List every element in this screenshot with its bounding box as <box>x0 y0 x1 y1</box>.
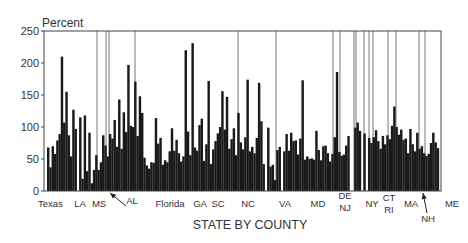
bar <box>244 137 246 191</box>
bar <box>283 151 285 191</box>
bar <box>292 141 294 191</box>
bar <box>233 128 235 191</box>
bar <box>272 165 274 191</box>
bar <box>251 147 253 191</box>
bar <box>260 121 262 191</box>
bar <box>221 91 223 191</box>
bar <box>75 129 77 191</box>
bar <box>123 112 125 191</box>
bar <box>164 160 166 191</box>
bar <box>384 144 386 191</box>
bar <box>400 130 402 191</box>
bar <box>304 160 306 191</box>
bar <box>52 146 54 191</box>
bar <box>120 149 122 191</box>
bar <box>334 137 336 191</box>
bar <box>382 136 384 191</box>
bar <box>148 169 150 191</box>
bar <box>285 134 287 191</box>
bar <box>395 127 397 191</box>
bar <box>100 162 102 191</box>
bar <box>219 127 221 191</box>
state-label-de: DE <box>338 190 351 201</box>
state-label-nj: NJ <box>339 202 351 213</box>
bar <box>47 147 49 191</box>
y-tick-label: 150 <box>21 89 39 101</box>
state-label-md: MD <box>311 198 326 209</box>
bar <box>269 167 271 191</box>
al-arrow-icon <box>110 193 126 206</box>
bar <box>379 149 381 191</box>
state-label-sc: SC <box>211 198 224 209</box>
bar <box>157 144 159 191</box>
bar <box>185 50 187 191</box>
bar <box>391 126 393 191</box>
bar <box>407 153 409 191</box>
bar <box>386 135 388 191</box>
bar <box>65 92 67 191</box>
bar <box>150 162 152 191</box>
bar <box>146 165 148 191</box>
bar <box>423 153 425 191</box>
state-label-al: AL <box>126 195 138 206</box>
state-label-ga: GA <box>193 198 207 209</box>
bar <box>324 146 326 191</box>
bar <box>398 135 400 191</box>
bar <box>169 151 171 191</box>
bar <box>409 129 411 191</box>
bar <box>373 137 375 191</box>
bar <box>290 133 292 191</box>
state-label-me: ME <box>445 198 459 209</box>
bar <box>56 140 58 191</box>
bar <box>288 151 290 191</box>
bar <box>356 123 358 191</box>
bar <box>306 156 308 191</box>
bar <box>434 142 436 191</box>
bar <box>249 151 251 191</box>
bar <box>88 133 90 191</box>
bar <box>171 128 173 191</box>
bar <box>418 149 420 191</box>
state-label-ma: MA <box>404 198 419 209</box>
bar <box>347 136 349 191</box>
state-label-ri: RI <box>384 204 394 215</box>
bar <box>340 156 342 191</box>
bar <box>267 128 269 191</box>
bar <box>102 135 104 191</box>
bar <box>162 165 164 191</box>
bar <box>411 144 413 191</box>
state-label-la: LA <box>74 198 86 209</box>
bar <box>299 139 301 191</box>
bar <box>86 171 88 191</box>
bar <box>308 159 310 191</box>
bar <box>258 83 260 191</box>
bar <box>97 170 99 191</box>
bar <box>205 144 207 191</box>
bar <box>359 131 361 191</box>
bar <box>91 183 93 191</box>
bar <box>405 139 407 191</box>
bar <box>49 167 51 191</box>
bar <box>402 140 404 191</box>
bar <box>430 143 432 191</box>
state-label-ct: CT <box>383 192 396 203</box>
bar <box>187 131 189 191</box>
bar <box>79 117 81 191</box>
bar <box>127 65 129 191</box>
bar <box>295 140 297 191</box>
state-label-nh: NH <box>421 213 435 224</box>
bar <box>178 153 180 191</box>
bar <box>230 139 232 191</box>
y-tick-label: 50 <box>27 153 39 165</box>
bar <box>189 155 191 191</box>
bar <box>111 139 113 191</box>
bar <box>130 126 132 191</box>
bar <box>132 127 134 191</box>
bar <box>329 162 331 191</box>
bar <box>182 156 184 191</box>
bar <box>125 132 127 191</box>
bar <box>180 162 182 191</box>
state-label-texas: Texas <box>38 198 63 209</box>
bar <box>246 80 248 191</box>
bar <box>68 135 70 191</box>
